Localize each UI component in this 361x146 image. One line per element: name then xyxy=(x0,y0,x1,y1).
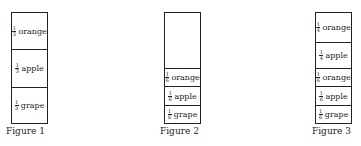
fraction: 16 xyxy=(168,91,172,102)
cell-grape: 16 grape xyxy=(316,105,351,123)
cell-grape: 16 grape xyxy=(165,105,200,123)
cell-grape: 13 grape xyxy=(12,87,47,123)
figure-1-box: 13 orange 13 apple 13 grape xyxy=(11,12,48,124)
figure-2-caption: Figure 2 xyxy=(160,126,199,136)
cell-label: grape xyxy=(21,101,45,110)
cell-orange: 13 orange xyxy=(12,13,47,49)
cell-orange: 16 orange xyxy=(316,68,351,86)
cell-label: grape xyxy=(174,110,198,119)
figure-3-box: 14 orange 14 apple 16 orange 16 apple 16… xyxy=(315,12,352,124)
fraction: 14 xyxy=(319,50,323,61)
fraction: 16 xyxy=(319,91,323,102)
cell-label: orange xyxy=(322,73,350,82)
cell-label: apple xyxy=(174,92,196,101)
cell-label: grape xyxy=(325,110,349,119)
cell-label: apple xyxy=(325,51,347,60)
fraction: 13 xyxy=(15,100,19,111)
figure-3-caption: Figure 3 xyxy=(312,126,351,136)
cell-apple: 16 apple xyxy=(316,86,351,105)
cell-label: apple xyxy=(325,92,347,101)
figure-1-caption: Figure 1 xyxy=(6,126,45,136)
fraction: 13 xyxy=(12,26,16,37)
cell-label: apple xyxy=(21,64,43,73)
fraction: 16 xyxy=(165,72,169,83)
cell-label: orange xyxy=(171,73,199,82)
cell-orange: 14 orange xyxy=(316,13,351,42)
fraction: 16 xyxy=(319,109,323,120)
fraction: 13 xyxy=(15,63,19,74)
cell-label: orange xyxy=(322,23,350,32)
cell-apple: 16 apple xyxy=(165,86,200,105)
fraction: 14 xyxy=(316,22,320,33)
fraction: 16 xyxy=(316,72,320,83)
fraction: 16 xyxy=(168,109,172,120)
cell-apple: 13 apple xyxy=(12,49,47,87)
figure-2-box: 16 orange 16 apple 16 grape xyxy=(164,12,201,124)
cell-orange: 16 orange xyxy=(165,68,200,86)
cell-label: orange xyxy=(18,27,46,36)
cell-apple: 14 apple xyxy=(316,42,351,68)
